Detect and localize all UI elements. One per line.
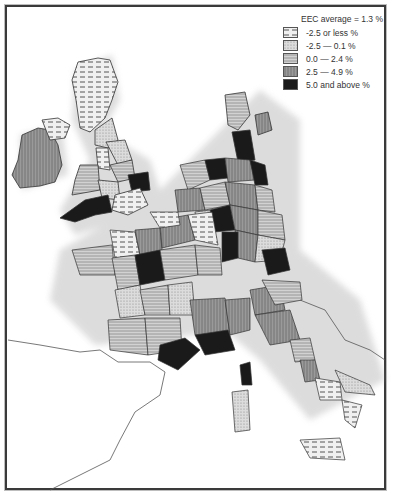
legend-row-hlines: 0.0 — 2.4 % [283,52,383,65]
swatch-dashes-icon [283,27,298,38]
legend-row-vlines: 2.5 — 4.9 % [283,65,383,78]
legend-row-dots: -2.5 — 0.1 % [283,39,383,52]
legend-label: 2.5 — 4.9 % [306,67,353,77]
legend-label: -2.5 — 0.1 % [306,41,356,51]
legend-label: -2.5 or less % [306,28,358,38]
swatch-hlines-icon [283,53,298,64]
swatch-solid-icon [283,79,298,90]
legend-label: 5.0 and above % [306,80,370,90]
map-legend: EEC average = 1.3 % -2.5 or less % -2.5 … [283,14,383,91]
legend-row-dashes: -2.5 or less % [283,26,383,39]
swatch-vlines-icon [283,66,298,77]
legend-label: 0.0 — 2.4 % [306,54,353,64]
swatch-dots-icon [283,40,298,51]
legend-title: EEC average = 1.3 % [301,14,383,24]
legend-row-solid: 5.0 and above % [283,78,383,91]
spain-coastline [8,340,165,490]
